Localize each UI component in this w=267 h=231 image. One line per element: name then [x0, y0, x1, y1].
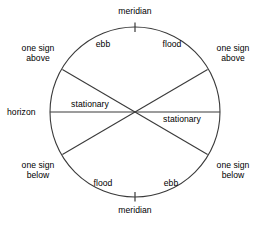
label-one-sign-below-right-line2: below [222, 170, 245, 180]
label-flood-top: flood [163, 39, 182, 49]
label-stationary-left: stationary [71, 99, 109, 109]
label-ebb-top: ebb [96, 39, 111, 49]
tidal-phase-diagram: meridian meridian one sign above one sig… [0, 0, 267, 231]
label-one-sign-above-left-line2: above [26, 53, 50, 63]
label-one-sign-above-right-line1: one sign [217, 43, 250, 53]
label-one-sign-above-left-line1: one sign [22, 43, 55, 53]
label-one-sign-below-left-line2: below [27, 170, 50, 180]
label-ebb-bottom: ebb [164, 178, 179, 188]
label-stationary-right: stationary [163, 114, 201, 124]
label-meridian-bottom: meridian [118, 205, 151, 215]
label-flood-bottom: flood [94, 178, 113, 188]
label-one-sign-above-right-line2: above [221, 53, 245, 63]
diagram-canvas [0, 0, 267, 231]
label-meridian-top: meridian [118, 6, 151, 16]
label-horizon: horizon [7, 107, 36, 117]
label-one-sign-below-right-line1: one sign [217, 160, 250, 170]
label-one-sign-below-left-line1: one sign [22, 160, 55, 170]
